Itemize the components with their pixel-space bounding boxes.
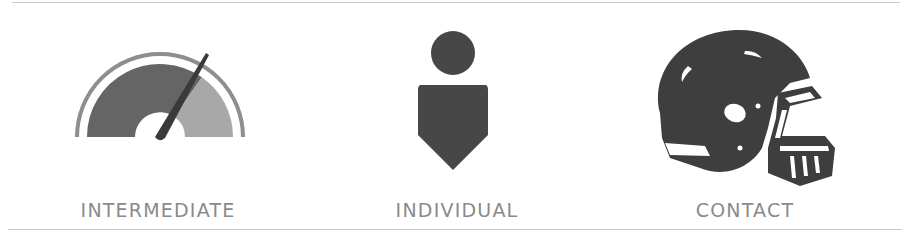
football-helmet-icon <box>640 18 840 188</box>
bottom-divider <box>8 229 902 230</box>
feature-label-contact: CONTACT <box>696 199 795 221</box>
feature-contact: CONTACT <box>0 0 920 229</box>
